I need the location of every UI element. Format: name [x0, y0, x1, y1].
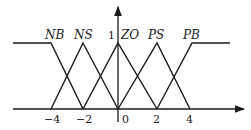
label-pb: PB [182, 28, 200, 42]
tick-0: 0 [122, 113, 129, 126]
pb-curve [157, 43, 230, 109]
zo-curve [83, 43, 157, 109]
label-ns: NS [73, 28, 93, 42]
tick-4: 4 [186, 113, 193, 126]
label-one: 1 [108, 29, 115, 42]
nb-curve [13, 43, 83, 109]
tick-minus-4: −4 [44, 113, 60, 126]
ps-curve [118, 43, 190, 109]
tick-2: 2 [153, 113, 160, 126]
label-zo: ZO [120, 28, 139, 42]
ns-curve [51, 43, 118, 109]
membership-diagram: NB NS 1 ZO PS PB −4 −2 0 2 4 [0, 0, 251, 130]
label-ps: PS [147, 28, 164, 42]
label-nb: NB [44, 28, 65, 42]
tick-minus-2: −2 [76, 113, 92, 126]
